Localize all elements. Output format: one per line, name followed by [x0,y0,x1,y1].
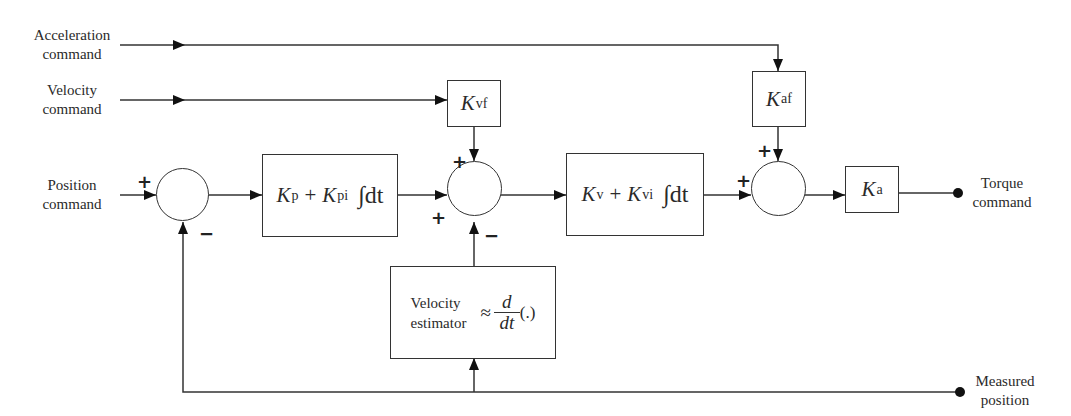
control-block-diagram: Acceleration command Velocity command Po… [0,0,1071,416]
position-command-label: Position command [22,176,122,214]
plus-operator: + [610,182,622,207]
integral-term: ∫dt [358,182,383,209]
sum1-minus-sign: − [199,225,214,243]
sum3-left-plus-sign: + [736,172,751,190]
kp-subscript: p [292,188,299,204]
label-line: command [22,45,122,64]
torque-command-label: Torque command [962,174,1042,212]
label-line: command [22,100,122,119]
label-line: Acceleration [22,26,122,45]
velocity-estimator-block: Velocity estimator ≈ d dt (.) [390,266,556,359]
gain-symbol: K [766,87,780,112]
sum2-top-plus-sign: + [452,153,467,171]
sum1-plus-sign: + [137,173,152,191]
derivative-fraction: d dt [494,292,520,333]
label-line: Velocity [411,293,467,313]
gain-symbol: K [461,91,475,116]
kpi-symbol: K [322,183,336,208]
label-line: Measured [965,372,1045,391]
position-error-summing-junction [156,168,209,221]
kv-symbol: K [581,182,595,207]
derivative-argument: (.) [520,303,536,323]
kvf-gain-block: Kvf [447,80,501,127]
kpi-subscript: pi [337,188,348,204]
kp-symbol: K [276,183,290,208]
integral-term: ∫dt [663,181,688,208]
fraction-denominator: dt [499,313,514,333]
estimator-label: Velocity estimator [411,293,467,333]
label-line: command [962,193,1042,212]
plus-operator: + [305,183,317,208]
label-line: estimator [411,313,467,333]
torque-output-terminal [953,188,963,198]
gain-subscript: vf [476,96,488,112]
kaf-gain-block: Kaf [752,71,806,127]
kvi-symbol: K [627,182,641,207]
gain-subscript: a [876,182,882,198]
velocity-pi-controller-block: Kv + Kvi ∫dt [566,153,704,236]
acceleration-command-label: Acceleration command [22,26,122,64]
measured-position-label: Measured position [965,372,1045,410]
label-line: command [22,195,122,214]
measured-position-terminal [955,387,965,397]
ka-gain-block: Ka [845,166,899,213]
gain-subscript: af [781,91,792,107]
fraction-numerator: d [502,292,512,312]
torque-summing-junction [751,161,806,216]
sum2-left-plus-sign: + [431,209,446,227]
gain-symbol: K [861,177,875,202]
approx-symbol: ≈ [480,302,490,324]
sum2-minus-sign: − [484,227,499,245]
kvi-subscript: vi [642,187,653,203]
label-line: Torque [962,174,1042,193]
label-line: Velocity [22,81,122,100]
position-pi-controller-block: Kp + Kpi ∫dt [262,154,398,237]
label-line: Position [22,176,122,195]
velocity-command-label: Velocity command [22,81,122,119]
label-line: position [965,391,1045,410]
kv-subscript: v [597,187,604,203]
sum3-top-plus-sign: + [757,142,772,160]
